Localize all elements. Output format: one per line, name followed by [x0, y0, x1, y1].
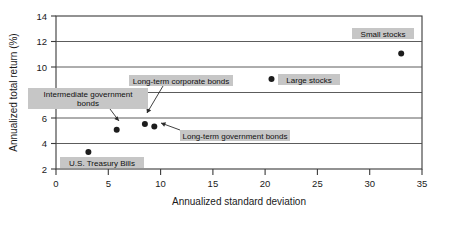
x-tick-label-5: 5: [106, 178, 111, 189]
data-point-large-stocks: [269, 76, 275, 82]
y-tick-label-10: 10: [36, 62, 47, 73]
tbills-label: U.S. Treasury Bills: [69, 159, 135, 168]
y-tick-label-6: 6: [42, 113, 47, 124]
lt-corporate-label: Long-term corporate bonds: [133, 77, 230, 86]
intermediate-gov-label-line1: Intermediate government: [44, 90, 134, 99]
y-axis-title: Annualized total return (%): [8, 33, 19, 151]
small-stocks-label: Small stocks: [361, 30, 406, 39]
x-tick-label-35: 35: [417, 178, 428, 189]
x-tick-label-25: 25: [312, 178, 323, 189]
annotation-large-stocks: Large stocks: [278, 74, 340, 85]
annotation-us-treasury-bills: U.S. Treasury Bills: [60, 157, 144, 168]
data-point-intermediate-government-bonds: [114, 127, 120, 133]
y-tick-label-14: 14: [36, 11, 47, 22]
y-tick-label-12: 12: [36, 36, 47, 47]
scatter-chart: 14 12 10 8 6 4 2 0 5 10 15 20 25 30 35 A…: [0, 0, 449, 229]
data-point-small-stocks: [398, 50, 404, 56]
x-tick-label-15: 15: [208, 178, 219, 189]
x-tick-label-10: 10: [155, 178, 166, 189]
data-point-long-term-government-bonds: [151, 124, 157, 130]
data-point-long-term-corporate-bonds: [142, 121, 148, 127]
x-tick-label-30: 30: [364, 178, 375, 189]
intermediate-gov-label-line2: bonds: [77, 99, 99, 108]
y-tick-label-2: 2: [42, 164, 47, 175]
x-tick-label-20: 20: [260, 178, 271, 189]
x-tick-label-0: 0: [53, 178, 58, 189]
lt-government-label: Long-term government bonds: [183, 132, 288, 141]
annotation-small-stocks: Small stocks: [352, 28, 414, 39]
y-tick-label-4: 4: [42, 138, 47, 149]
data-point-us-treasury-bills: [85, 149, 91, 155]
x-axis-title: Annualized standard deviation: [172, 196, 306, 207]
large-stocks-label: Large stocks: [286, 76, 331, 85]
